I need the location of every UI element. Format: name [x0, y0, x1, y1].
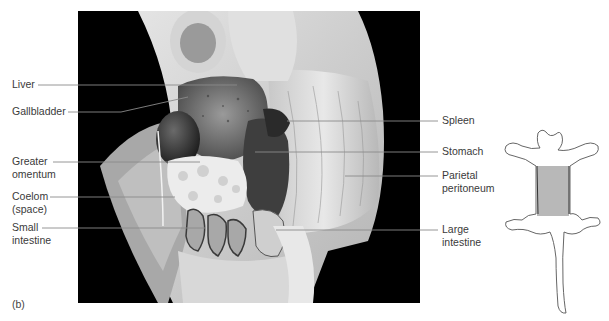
- label-text: Parietal: [442, 169, 495, 182]
- label-spleen: Spleen: [442, 114, 475, 127]
- label-text: intestine: [12, 234, 51, 247]
- label-large-intestine: Large intestine: [442, 223, 481, 248]
- label-text: Gallbladder: [12, 105, 66, 118]
- label-small-intestine: Small intestine: [12, 221, 51, 246]
- label-greater-omentum: Greater omentum: [12, 155, 56, 180]
- label-text: Small: [12, 221, 51, 234]
- rat-silhouette-diagram: [500, 128, 605, 318]
- label-liver: Liver: [12, 78, 35, 91]
- label-stomach: Stomach: [442, 145, 483, 158]
- label-text: Coelom: [12, 190, 48, 203]
- dissection-region-highlight: [537, 166, 569, 216]
- label-text: Large: [442, 223, 481, 236]
- label-text: Greater: [12, 155, 56, 168]
- label-parietal-peritoneum: Parietal peritoneum: [442, 169, 495, 194]
- rat-outline: [505, 130, 600, 313]
- panel-label: (b): [12, 298, 25, 310]
- label-gallbladder: Gallbladder: [12, 105, 66, 118]
- label-text: peritoneum: [442, 182, 495, 195]
- label-text: Stomach: [442, 145, 483, 158]
- dissection-photo: [78, 11, 420, 303]
- label-coelom: Coelom (space): [12, 190, 48, 215]
- label-text: intestine: [442, 236, 481, 249]
- label-text: Liver: [12, 78, 35, 91]
- label-text: omentum: [12, 168, 56, 181]
- label-text: Spleen: [442, 114, 475, 127]
- label-text: (space): [12, 203, 48, 216]
